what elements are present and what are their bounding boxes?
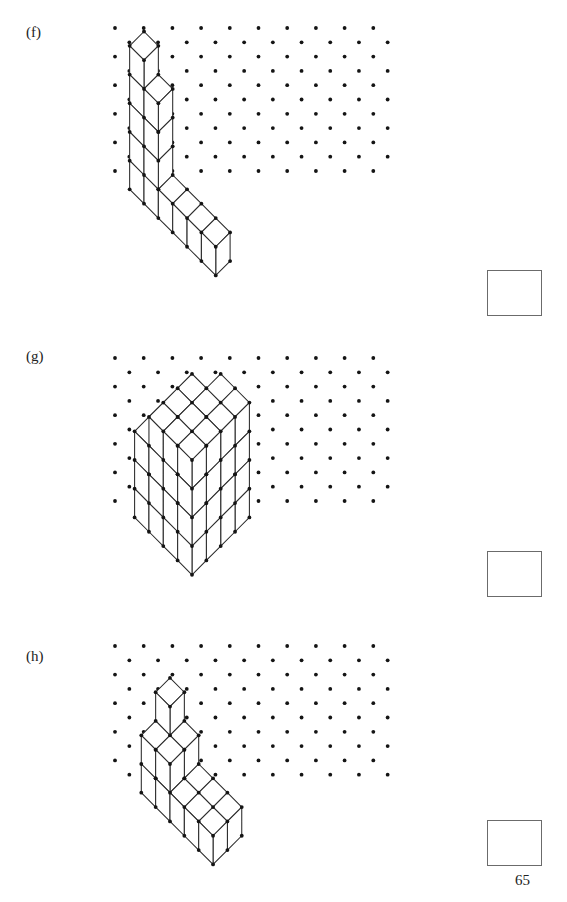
grid-dot bbox=[113, 644, 117, 648]
grid-dot bbox=[171, 55, 175, 59]
grid-dot bbox=[257, 701, 261, 705]
grid-dot bbox=[314, 730, 318, 734]
cube-vertex bbox=[154, 805, 158, 809]
cube-vertex bbox=[190, 429, 194, 433]
grid-dot bbox=[271, 744, 275, 748]
grid-dot bbox=[343, 499, 347, 503]
cube-vertex bbox=[211, 805, 215, 809]
grid-dot bbox=[314, 141, 318, 145]
grid-dot bbox=[328, 40, 332, 44]
cube-vertex bbox=[190, 544, 194, 548]
cube-vertex bbox=[204, 415, 208, 419]
cube-vertex bbox=[248, 429, 252, 433]
cube-vertex bbox=[168, 762, 172, 766]
grid-dot bbox=[228, 644, 232, 648]
grid-dot bbox=[271, 155, 275, 159]
cube-vertex bbox=[233, 472, 237, 476]
cube-vertex bbox=[233, 444, 237, 448]
grid-dot bbox=[242, 370, 246, 374]
grid-dot bbox=[371, 112, 375, 116]
grid-dot bbox=[113, 673, 117, 677]
grid-dot bbox=[300, 744, 304, 748]
grid-dot bbox=[271, 687, 275, 691]
grid-dot bbox=[343, 644, 347, 648]
grid-dot bbox=[228, 759, 232, 763]
grid-dot bbox=[242, 773, 246, 777]
cube-vertex bbox=[176, 472, 180, 476]
cube-vertex bbox=[182, 719, 186, 723]
grid-dot bbox=[285, 413, 289, 417]
grid-dot bbox=[185, 155, 189, 159]
grid-dot bbox=[156, 399, 160, 403]
grid-dot bbox=[285, 141, 289, 145]
grid-dot bbox=[285, 83, 289, 87]
grid-dot bbox=[228, 356, 232, 360]
grid-dot bbox=[371, 759, 375, 763]
grid-dot bbox=[314, 112, 318, 116]
cube-vertex bbox=[154, 719, 158, 723]
cube-vertex bbox=[182, 690, 186, 694]
grid-dot bbox=[371, 26, 375, 30]
grid-dot bbox=[357, 716, 361, 720]
grid-dot bbox=[386, 687, 390, 691]
cube-vertex bbox=[128, 44, 132, 48]
grid-dot bbox=[185, 716, 189, 720]
grid-dot bbox=[199, 644, 203, 648]
grid-dot bbox=[214, 773, 218, 777]
grid-dot bbox=[228, 673, 232, 677]
grid-dot bbox=[242, 716, 246, 720]
grid-dot bbox=[113, 413, 117, 417]
grid-dot bbox=[343, 730, 347, 734]
grid-dot bbox=[314, 442, 318, 446]
cube-vertex bbox=[139, 791, 143, 795]
cube-vertex bbox=[219, 516, 223, 520]
cube-vertex bbox=[168, 820, 172, 824]
cube-vertex bbox=[161, 401, 165, 405]
cube-vertex bbox=[133, 429, 137, 433]
cube-vertex bbox=[190, 573, 194, 577]
cube-vertex bbox=[147, 501, 151, 505]
cube-vertex bbox=[219, 458, 223, 462]
grid-dot bbox=[343, 169, 347, 173]
grid-dot bbox=[214, 126, 218, 130]
grid-dot bbox=[127, 773, 131, 777]
grid-dot bbox=[386, 399, 390, 403]
grid-dot bbox=[185, 40, 189, 44]
cube-vertex bbox=[139, 733, 143, 737]
grid-dot bbox=[300, 716, 304, 720]
grid-dot bbox=[371, 673, 375, 677]
grid-dot bbox=[343, 471, 347, 475]
grid-dot bbox=[328, 658, 332, 662]
grid-dot bbox=[285, 471, 289, 475]
grid-dot bbox=[171, 385, 175, 389]
grid-dot bbox=[156, 370, 160, 374]
grid-dot bbox=[285, 499, 289, 503]
grid-dot bbox=[314, 499, 318, 503]
grid-dot bbox=[228, 112, 232, 116]
cube-vertex bbox=[156, 187, 160, 191]
grid-dot bbox=[357, 658, 361, 662]
grid-dot bbox=[343, 26, 347, 30]
answer-box-f[interactable] bbox=[487, 270, 542, 316]
grid-dot bbox=[314, 26, 318, 30]
grid-dot bbox=[271, 40, 275, 44]
grid-dot bbox=[113, 356, 117, 360]
grid-dot bbox=[242, 658, 246, 662]
grid-dot bbox=[242, 69, 246, 73]
grid-dot bbox=[271, 98, 275, 102]
grid-dot bbox=[257, 55, 261, 59]
grid-dot bbox=[328, 69, 332, 73]
grid-dot bbox=[113, 26, 117, 30]
grid-dot bbox=[357, 40, 361, 44]
grid-dot bbox=[199, 730, 203, 734]
grid-dot bbox=[343, 701, 347, 705]
answer-box-h[interactable] bbox=[487, 820, 542, 866]
cube-vertex bbox=[176, 530, 180, 534]
grid-dot bbox=[127, 428, 131, 432]
grid-dot bbox=[357, 126, 361, 130]
grid-dot bbox=[199, 55, 203, 59]
cube-vertex bbox=[171, 231, 175, 235]
cube-vertex bbox=[219, 544, 223, 548]
answer-box-g[interactable] bbox=[487, 551, 542, 597]
grid-dot bbox=[371, 83, 375, 87]
